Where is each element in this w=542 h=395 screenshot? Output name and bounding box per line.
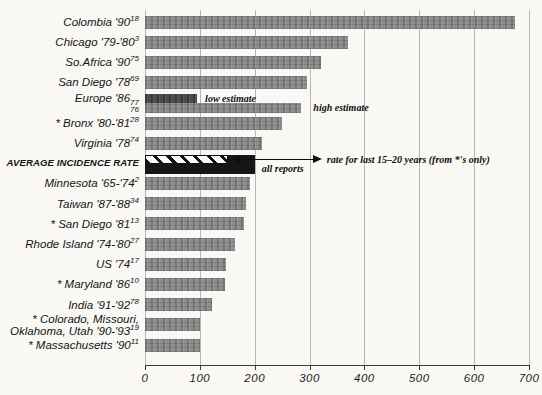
chart-row: * Bronx '80-'8128 <box>0 113 542 133</box>
arrow-right-icon <box>313 155 322 163</box>
row-label-superscript: 10 <box>130 277 139 286</box>
annotation-rate-note: rate for last 15–20 years (from *'s only… <box>327 154 490 165</box>
bar-zone <box>145 234 529 254</box>
row-label-superscript: 11 <box>131 337 139 346</box>
chart-row: Colombia '9018 <box>0 12 542 32</box>
row-label-text: So.Africa '90 <box>65 56 130 68</box>
row-label-superscript: 34 <box>130 196 139 205</box>
axis-tick <box>255 365 256 370</box>
bar-zone <box>145 12 529 32</box>
arrow-left-icon <box>232 155 241 163</box>
axis-tick-label: 0 <box>142 372 149 384</box>
bar-recent-rate-hatched <box>145 155 228 164</box>
row-label-text: India '91-'92 <box>68 299 130 311</box>
chart-row: Minnesota '65-'742 <box>0 174 542 194</box>
bar <box>145 238 235 251</box>
bar <box>145 56 321 69</box>
row-label-text: * Massachusetts '90 <box>28 339 131 351</box>
bar <box>145 278 225 291</box>
chart-row: AVERAGE INCIDENCE RATErate for last 15–2… <box>0 153 542 173</box>
row-label-sup-sub: 7776 <box>130 99 139 114</box>
bar-rows: Colombia '9018Chicago '79-'803So.Africa … <box>0 12 542 355</box>
row-label-text: Europe '86 <box>75 92 130 104</box>
bar <box>145 318 200 331</box>
row-label-text: * Maryland '86 <box>57 278 130 290</box>
bar <box>145 177 250 190</box>
bar <box>145 339 200 352</box>
chart-row: Rhode Island '74-'8027 <box>0 234 542 254</box>
row-label-text: Virginia '78 <box>74 137 130 149</box>
bar-zone <box>145 274 529 294</box>
bar-zone <box>145 315 529 335</box>
axis-tick <box>145 365 146 370</box>
bar-zone <box>145 52 529 72</box>
row-label: * Maryland '8610 <box>0 278 145 290</box>
row-label-text: AVERAGE INCIDENCE RATE <box>7 157 139 168</box>
row-label-superscript: 74 <box>130 135 139 144</box>
bar-zone <box>145 133 529 153</box>
row-label-superscript: 2 <box>135 176 139 185</box>
row-label-superscript: 13 <box>130 216 139 225</box>
axis-tick <box>419 365 420 370</box>
bar-zone <box>145 174 529 194</box>
chart-row: * Massachusetts '9011 <box>0 335 542 355</box>
chart-row: San Diego '7869 <box>0 73 542 93</box>
bar-zone: rate for last 15–20 years (from *'s only… <box>145 153 529 173</box>
bar-zone <box>145 214 529 234</box>
axis-tick-label: 500 <box>409 372 430 384</box>
annotation-high-estimate: high estimate <box>313 102 368 113</box>
row-label-superscript: 75 <box>130 54 139 63</box>
chart-row: US '7417 <box>0 254 542 274</box>
bar-zone <box>145 32 529 52</box>
row-label-superscript: 78 <box>130 297 139 306</box>
axis-tick-label: 600 <box>464 372 485 384</box>
bar <box>145 298 212 311</box>
chart-row: So.Africa '9075 <box>0 52 542 72</box>
row-label-superscript: 17 <box>130 256 139 265</box>
bar-zone <box>145 73 529 93</box>
bar <box>145 117 282 130</box>
row-label: Chicago '79-'803 <box>0 36 145 48</box>
chart-row: * San Diego '8113 <box>0 214 542 234</box>
row-label: Rhode Island '74-'8027 <box>0 238 145 250</box>
chart-row: Virginia '7874 <box>0 133 542 153</box>
bar-low-estimate <box>145 94 197 103</box>
bar <box>145 16 515 29</box>
row-label-superscript: 3 <box>135 34 139 43</box>
row-label-superscript: 19 <box>130 323 139 332</box>
axis-tick-label: 100 <box>190 372 211 384</box>
row-label-superscript: 27 <box>130 236 139 245</box>
axis-tick <box>474 365 475 370</box>
bar-zone <box>145 113 529 133</box>
row-label: San Diego '7869 <box>0 76 145 88</box>
row-label: * San Diego '8113 <box>0 218 145 230</box>
row-label: Taiwan '87-'8834 <box>0 198 145 210</box>
row-label-subscript: 76 <box>130 106 139 114</box>
axis-tick <box>364 365 365 370</box>
bar <box>145 76 307 89</box>
row-label-text: Taiwan '87-'88 <box>57 198 130 210</box>
chart-row: Taiwan '87-'8834 <box>0 194 542 214</box>
row-label-text: * Bronx '80-'81 <box>55 117 130 129</box>
axis-tick-label: 700 <box>519 372 540 384</box>
bar-zone <box>145 254 529 274</box>
row-label-text: * Colorado, Missouri, Oklahoma, Utah '90… <box>10 313 139 337</box>
row-label: * Bronx '80-'8128 <box>0 117 145 129</box>
annotation-low-estimate: low estimate <box>205 93 256 104</box>
row-label-text: Colombia '90 <box>63 16 130 28</box>
bar-all-reports <box>145 164 255 174</box>
row-label-text: * San Diego '81 <box>51 218 131 230</box>
bar-zone <box>145 194 529 214</box>
axis-tick <box>310 365 311 370</box>
row-label: AVERAGE INCIDENCE RATE <box>0 158 145 168</box>
axis-tick <box>529 365 530 370</box>
bar <box>145 36 348 49</box>
row-label-text: Minnesota '65-'74 <box>44 177 134 189</box>
row-label: * Massachusetts '9011 <box>0 339 145 351</box>
bar-zone: low estimatehigh estimate <box>145 93 529 113</box>
axis-tick-label: 300 <box>299 372 320 384</box>
row-label: So.Africa '9075 <box>0 56 145 68</box>
row-label: Minnesota '65-'742 <box>0 177 145 189</box>
arrow-line <box>241 159 313 160</box>
row-label: Virginia '7874 <box>0 137 145 149</box>
